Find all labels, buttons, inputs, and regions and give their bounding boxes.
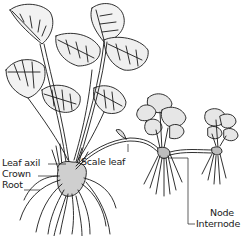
plant-illustration xyxy=(0,0,246,236)
runner-2 xyxy=(170,150,214,153)
label-node: Node xyxy=(210,208,234,218)
label-scale-leaf: Scale leaf xyxy=(81,157,125,167)
scale-leaf xyxy=(116,129,126,139)
daughter-plant-1 xyxy=(137,94,186,196)
label-crown: Crown xyxy=(2,169,31,179)
daughter-plant-2 xyxy=(202,109,238,184)
mother-plant-leaves xyxy=(6,3,148,113)
label-leaf-axil: Leaf axil xyxy=(2,158,40,168)
strawberry-plant-diagram: Leaf axil Crown Root Scale leaf Node Int… xyxy=(0,0,246,236)
label-internode: Internode xyxy=(196,219,240,229)
label-root: Root xyxy=(2,180,23,190)
